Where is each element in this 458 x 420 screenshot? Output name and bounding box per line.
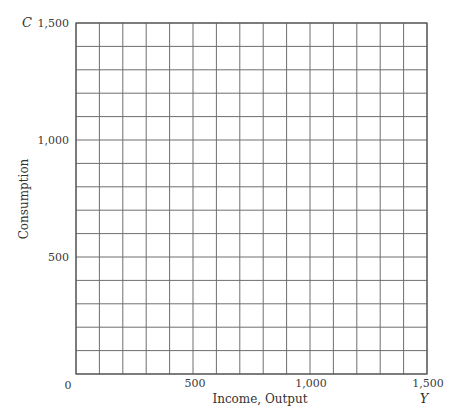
y-tick-label-500: 500 <box>48 251 69 264</box>
origin-label: 0 <box>65 379 72 392</box>
plot-grid <box>76 23 427 374</box>
y-axis-title: Consumption <box>17 158 31 239</box>
x-axis-variable: Y <box>420 391 430 406</box>
y-axis-variable: C <box>22 15 32 30</box>
y-tick-label-1000: 1,000 <box>38 134 70 147</box>
x-axis-title: Income, Output <box>212 392 307 406</box>
x-tick-label-500: 500 <box>185 377 206 390</box>
x-tick-label-1500: 1,500 <box>412 377 444 390</box>
plot-frame <box>76 23 427 374</box>
y-tick-label-1500: 1,500 <box>38 17 70 30</box>
consumption-income-chart: C 1,500 1,000 500 Consumption 0 500 1,00… <box>0 0 458 420</box>
x-tick-label-1000: 1,000 <box>295 377 327 390</box>
